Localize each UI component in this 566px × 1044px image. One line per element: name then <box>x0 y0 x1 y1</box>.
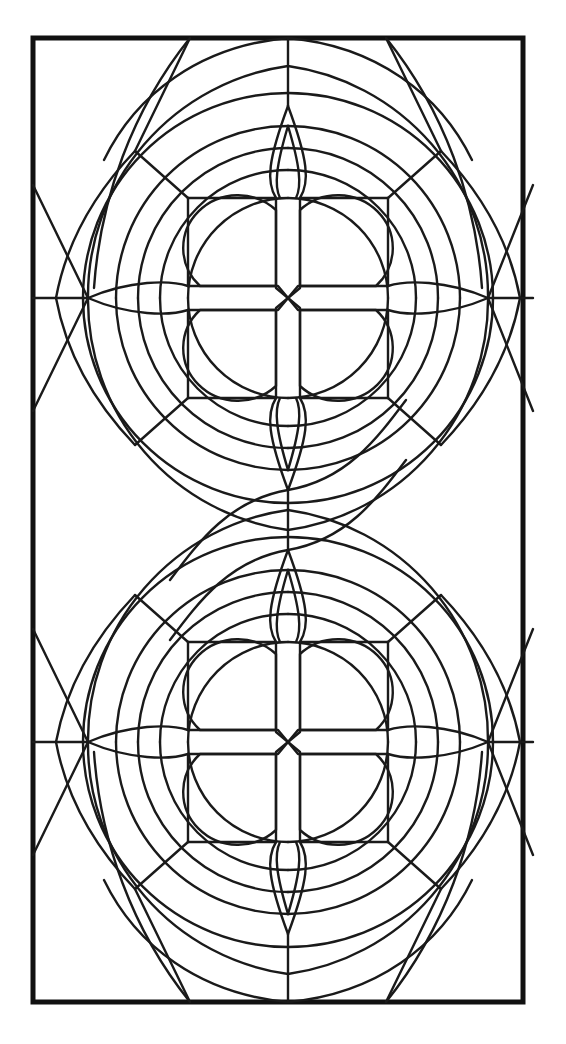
stained-glass-artwork <box>0 0 566 1044</box>
page-background <box>0 0 566 1044</box>
pattern-canvas <box>0 0 566 1044</box>
